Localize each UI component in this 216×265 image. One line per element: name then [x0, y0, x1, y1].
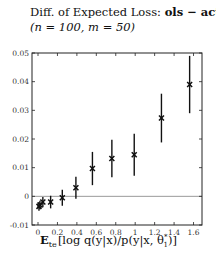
xlabel-close: )]	[168, 233, 177, 247]
y-tick-label: 0	[24, 192, 29, 201]
y-tick-label: 0.03	[12, 106, 29, 115]
y-tick-label: 0.04	[12, 77, 29, 86]
y-tick-label: 0.05	[12, 49, 29, 58]
y-tick-label: 0.02	[12, 135, 29, 144]
y-tick-label: 0.01	[12, 163, 29, 172]
plot-frame	[32, 53, 202, 225]
xlabel-expectation: E	[40, 233, 49, 247]
xlabel-sup: *	[164, 233, 168, 241]
plot-area: 00.20.40.60.811.21.41.6-0.0100.010.020.0…	[0, 0, 216, 265]
x-axis-label: Ete [log q(y|x)/p(y|x, θ*1)]	[40, 233, 177, 249]
y-tick-label: -0.01	[10, 221, 29, 230]
xlabel-body: [log q(y|x)/p(y|x, θ	[58, 233, 164, 247]
x-tick-label: 1.6	[188, 228, 200, 237]
xlabel-sub: te	[49, 240, 57, 249]
